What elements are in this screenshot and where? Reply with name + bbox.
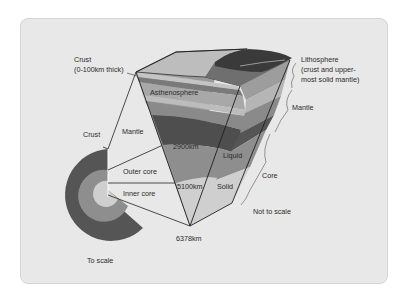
label-inner-core: Inner core (123, 189, 155, 198)
label-lithosphere-desc-2: most solid mantle) (301, 75, 359, 84)
label-depth-2900: 2900km (173, 142, 199, 151)
inner-core-disc (93, 181, 118, 207)
label-lithosphere: Lithosphere (301, 55, 339, 64)
label-solid: Solid (217, 182, 233, 191)
earth-structure-diagram: Crust (0-100km thick) Lithosphere (crust… (0, 0, 407, 301)
label-asthenosphere: Asthenosphere (150, 88, 198, 97)
label-crust-left: Crust (83, 130, 100, 139)
label-crust-top: Crust (74, 55, 91, 64)
label-outer-core: Outer core (123, 167, 157, 176)
label-mantle-right: Mantle (292, 103, 314, 112)
label-to-scale: To scale (87, 256, 113, 265)
label-lithosphere-desc-1: (crust and upper- (301, 65, 356, 74)
label-mantle-left: Mantle (122, 127, 144, 136)
label-depth-6378: 6378km (176, 234, 202, 243)
label-depth-5100: 5100km (177, 182, 203, 191)
label-not-to-scale: Not to scale (253, 207, 291, 216)
label-liquid: Liquid (223, 151, 242, 160)
label-crust-thickness: (0-100km thick) (74, 65, 124, 74)
label-core: Core (262, 171, 278, 180)
